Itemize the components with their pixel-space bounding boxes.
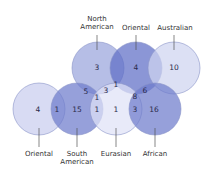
label-australian: Australian bbox=[152, 24, 198, 32]
region-oriental-left-south: 1 bbox=[55, 105, 60, 114]
label-south-american: South American bbox=[52, 150, 102, 166]
region-eurasian-only: 1 bbox=[114, 105, 119, 114]
venn-diagram: 3 4 10 5 3 1 1 6 8 4 1 15 1 1 3 16 North… bbox=[0, 0, 213, 171]
region-south-american-only: 15 bbox=[72, 105, 82, 114]
label-south-american-line1: South bbox=[52, 150, 102, 158]
region-oriental-eurasian-african: 8 bbox=[133, 92, 138, 101]
region-north-eurasian: 3 bbox=[104, 86, 109, 95]
label-north-american: North American bbox=[72, 15, 122, 31]
region-oriental-left-only: 4 bbox=[36, 105, 41, 114]
region-north-american-only: 3 bbox=[95, 63, 100, 72]
label-north-american-line1: North bbox=[72, 15, 122, 23]
region-oriental-australian-african: 6 bbox=[143, 86, 148, 95]
label-eurasian: Eurasian bbox=[96, 150, 136, 158]
region-north-south: 5 bbox=[84, 87, 89, 96]
region-north-south-eurasian: 1 bbox=[95, 93, 100, 102]
label-north-american-line2: American bbox=[72, 23, 122, 31]
label-south-american-line2: American bbox=[52, 158, 102, 166]
region-african-only: 16 bbox=[149, 105, 159, 114]
label-african: African bbox=[135, 150, 175, 158]
region-eurasian-african: 3 bbox=[133, 105, 138, 114]
region-australian-only: 10 bbox=[169, 63, 179, 72]
region-oriental-top-only: 4 bbox=[134, 63, 139, 72]
region-south-eurasian: 1 bbox=[95, 105, 100, 114]
region-north-eurasian-oriental: 1 bbox=[114, 80, 119, 89]
label-oriental-top: Oriental bbox=[116, 24, 156, 32]
